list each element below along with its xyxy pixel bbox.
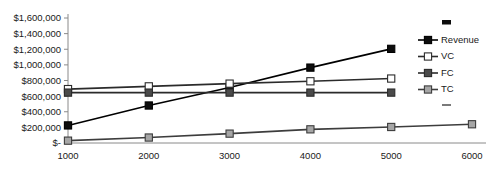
x-tick-label: 6000: [461, 150, 482, 161]
legend-label: TC: [441, 83, 454, 94]
y-tick-label: $600,000: [21, 91, 61, 102]
series-tc: [64, 121, 475, 145]
line-chart: $1,600,000$1,400,000$1,200,000$1,000,000…: [0, 0, 491, 172]
legend-label: VC: [441, 50, 454, 61]
data-point-marker: [388, 75, 395, 82]
legend: RevenueVCFCTC: [418, 20, 479, 106]
x-axis-tick-labels: 100020003000400050006000: [57, 150, 482, 161]
x-tick-label: 2000: [138, 150, 159, 161]
y-tick-label: $1,600,000: [13, 12, 61, 23]
chart-canvas: $1,600,000$1,400,000$1,200,000$1,000,000…: [0, 0, 491, 172]
x-tick-label: 5000: [381, 150, 402, 161]
legend-swatch-marker: [424, 36, 431, 43]
data-point-marker: [145, 134, 152, 141]
x-tick-label: 4000: [300, 150, 321, 161]
legend-swatch-marker: [424, 53, 431, 60]
legend-label: FC: [441, 67, 454, 78]
series-layer: [64, 45, 475, 144]
legend-overflow-glyph-top: [442, 20, 451, 25]
x-tick-label: 3000: [219, 150, 240, 161]
y-tick-label: $1,200,000: [13, 44, 61, 55]
data-point-marker: [388, 123, 395, 130]
legend-item-vc[interactable]: VC: [418, 50, 454, 61]
data-point-marker: [64, 137, 71, 144]
data-point-marker: [307, 64, 314, 71]
series-line: [68, 124, 472, 140]
y-tick-label: $800,000: [21, 75, 61, 86]
legend-overflow-glyph-bottom: [442, 104, 451, 106]
y-tick-label: $-: [53, 137, 61, 148]
data-point-marker: [307, 78, 314, 85]
x-tick-label: 1000: [57, 150, 78, 161]
y-tick-label: $1,000,000: [13, 59, 61, 70]
legend-swatch-marker: [424, 69, 431, 76]
legend-label: Revenue: [441, 34, 479, 45]
data-point-marker: [226, 130, 233, 137]
data-point-marker: [468, 121, 475, 128]
data-point-marker: [388, 89, 395, 96]
data-point-marker: [226, 89, 233, 96]
data-point-marker: [145, 102, 152, 109]
data-point-marker: [226, 80, 233, 87]
legend-item-revenue[interactable]: Revenue: [418, 34, 479, 45]
y-axis-tick-labels: $1,600,000$1,400,000$1,200,000$1,000,000…: [13, 12, 61, 148]
series-fc: [64, 89, 394, 96]
y-tick-label: $400,000: [21, 106, 61, 117]
data-point-marker: [64, 89, 71, 96]
data-point-marker: [307, 126, 314, 133]
data-point-marker: [145, 89, 152, 96]
legend-item-fc[interactable]: FC: [418, 67, 454, 78]
y-tick-label: $1,400,000: [13, 28, 61, 39]
legend-swatch-marker: [424, 86, 431, 93]
data-point-marker: [307, 89, 314, 96]
data-point-marker: [388, 45, 395, 52]
data-point-marker: [64, 122, 71, 129]
legend-item-tc[interactable]: TC: [418, 83, 454, 94]
y-tick-label: $200,000: [21, 122, 61, 133]
